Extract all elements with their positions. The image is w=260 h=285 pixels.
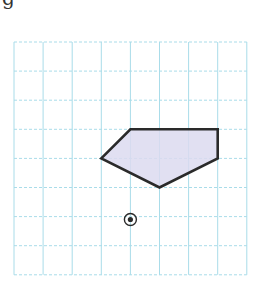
pentagon-shape — [101, 129, 217, 187]
grid-figure — [0, 0, 260, 285]
marker-dot-icon — [128, 217, 133, 222]
